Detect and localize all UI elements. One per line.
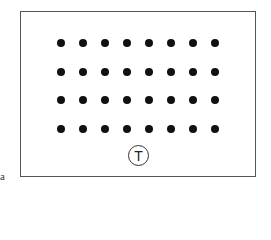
t-marker-circle: T <box>128 145 149 166</box>
grid-dot <box>167 68 175 76</box>
grid-dot <box>79 68 87 76</box>
grid-dot <box>101 96 109 104</box>
grid-dot <box>189 68 197 76</box>
grid-dot <box>101 39 109 47</box>
grid-dot <box>123 39 131 47</box>
grid-dot <box>211 39 219 47</box>
grid-dot <box>145 39 153 47</box>
grid-dot <box>189 39 197 47</box>
grid-dot <box>57 96 65 104</box>
grid-dot <box>167 39 175 47</box>
panel-label: a <box>0 170 5 182</box>
grid-dot <box>189 96 197 104</box>
grid-dot <box>167 96 175 104</box>
grid-dot <box>145 68 153 76</box>
grid-dot <box>189 125 197 133</box>
grid-dot <box>211 96 219 104</box>
grid-dot <box>79 125 87 133</box>
grid-dot <box>145 96 153 104</box>
grid-dot <box>211 125 219 133</box>
grid-dot <box>101 68 109 76</box>
grid-dot <box>123 96 131 104</box>
t-marker-label: T <box>134 149 143 163</box>
grid-dot <box>57 68 65 76</box>
grid-dot <box>57 39 65 47</box>
grid-dot <box>57 125 65 133</box>
grid-dot <box>211 68 219 76</box>
grid-dot <box>145 125 153 133</box>
grid-dot <box>123 125 131 133</box>
grid-dot <box>79 39 87 47</box>
grid-dot <box>167 125 175 133</box>
grid-dot <box>101 125 109 133</box>
grid-dot <box>123 68 131 76</box>
grid-dot <box>79 96 87 104</box>
